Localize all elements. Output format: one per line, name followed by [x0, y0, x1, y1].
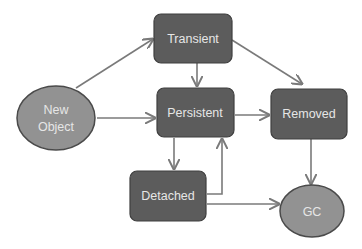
detached-label: Detached	[141, 189, 195, 203]
edge-transient-to-removed	[232, 40, 302, 84]
new-object-ellipse	[17, 86, 95, 150]
gc-label: GC	[303, 205, 322, 219]
node-gc: GC	[280, 185, 344, 237]
node-removed: Removed	[271, 89, 347, 139]
node-persistent: Persistent	[157, 88, 234, 137]
node-new-object: New Object	[17, 86, 95, 150]
persistent-label: Persistent	[167, 106, 223, 120]
edge-detached-to-persistent	[207, 139, 222, 194]
removed-label: Removed	[282, 107, 336, 121]
edge-new-object-to-transient	[76, 39, 153, 88]
node-transient: Transient	[154, 14, 232, 63]
new-object-label-line1: New	[43, 103, 69, 117]
new-object-label-line2: Object	[38, 120, 75, 134]
transient-label: Transient	[167, 32, 219, 46]
node-detached: Detached	[130, 171, 206, 221]
state-diagram: New Object Transient Persistent Removed …	[0, 0, 362, 249]
